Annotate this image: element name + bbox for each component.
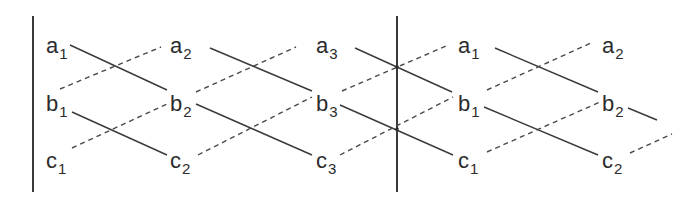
node-label-b1_right: b1 xyxy=(458,91,480,120)
solid-edge-a3-to-b1_right xyxy=(355,48,452,92)
node-subscript: 2 xyxy=(182,160,190,177)
labels-layer: a1b1c1a2b2c2a3b3c3a1b1c1a2b2c2 xyxy=(46,33,624,177)
node-label-c1_right: c1 xyxy=(458,148,478,177)
node-subscript: 2 xyxy=(615,45,623,62)
node-subscript: 1 xyxy=(59,45,67,62)
dashed-edge-b1_left-to-a2_left xyxy=(60,47,161,89)
dashed-edge-c1_left-to-b2_left xyxy=(72,104,167,148)
node-subscript: 3 xyxy=(328,160,336,177)
boundary-crossing-dot xyxy=(395,65,399,69)
node-subscript: 3 xyxy=(329,103,337,120)
node-label-c2_right: c2 xyxy=(602,148,622,177)
node-base-letter: b xyxy=(458,91,470,116)
node-base-letter: c xyxy=(46,148,57,173)
node-label-c2_left: c2 xyxy=(170,148,190,177)
node-base-letter: a xyxy=(170,33,183,58)
braid-diagram: a1b1c1a2b2c2a3b3c3a1b1c1a2b2c2 xyxy=(0,0,700,205)
node-label-a1_left: a1 xyxy=(46,33,68,62)
node-label-b3: b3 xyxy=(316,91,338,120)
node-label-a2_left: a2 xyxy=(170,33,192,62)
node-subscript: 1 xyxy=(59,103,67,120)
dashed-edge-c2_left-to-b3 xyxy=(198,97,312,155)
node-subscript: 1 xyxy=(471,103,479,120)
boundary-crossing-dot xyxy=(395,127,399,131)
node-base-letter: b xyxy=(602,91,614,116)
diagram-canvas: a1b1c1a2b2c2a3b3c3a1b1c1a2b2c2 xyxy=(0,0,700,205)
node-base-letter: b xyxy=(46,91,58,116)
node-base-letter: c xyxy=(602,148,613,173)
solid-edge-a1_right-to-b2_right xyxy=(495,48,598,92)
dashed-edge-c2_right-to-continuation xyxy=(630,134,672,153)
node-label-b2_left: b2 xyxy=(170,91,192,120)
solid-edge-b2_right-to-continuation xyxy=(628,108,657,120)
node-subscript: 2 xyxy=(615,103,623,120)
node-subscript: 3 xyxy=(329,45,337,62)
node-subscript: 1 xyxy=(470,160,478,177)
node-subscript: 1 xyxy=(58,160,66,177)
lines-layer xyxy=(33,16,672,192)
node-base-letter: c xyxy=(316,148,327,173)
node-label-a2_right: a2 xyxy=(602,33,624,62)
solid-edge-a2_left-to-b3 xyxy=(210,48,312,91)
node-subscript: 2 xyxy=(183,45,191,62)
solid-edge-a1_left-to-b2_left xyxy=(70,45,167,90)
node-base-letter: c xyxy=(458,148,469,173)
node-base-letter: c xyxy=(170,148,181,173)
node-label-c1_left: c1 xyxy=(46,148,66,177)
node-label-a1_right: a1 xyxy=(458,33,480,62)
node-subscript: 2 xyxy=(183,103,191,120)
solid-edge-b1_left-to-c2_left xyxy=(72,112,167,155)
solid-edge-b2_left-to-c3 xyxy=(196,104,312,155)
node-subscript: 2 xyxy=(614,160,622,177)
dashed-edge-b3-to-a1_right xyxy=(342,46,446,91)
solid-edge-b1_right-to-c2_right xyxy=(484,107,598,155)
node-base-letter: a xyxy=(602,33,615,58)
node-base-letter: a xyxy=(46,33,59,58)
dashed-edge-c1_right-to-b2_right xyxy=(487,102,600,152)
node-base-letter: b xyxy=(170,91,182,116)
node-base-letter: b xyxy=(316,91,328,116)
node-label-a3: a3 xyxy=(316,33,338,62)
node-label-b2_right: b2 xyxy=(602,91,624,120)
node-base-letter: a xyxy=(316,33,329,58)
node-label-c3: c3 xyxy=(316,148,336,177)
node-base-letter: a xyxy=(458,33,471,58)
dashed-edge-b2_left-to-a3 xyxy=(196,47,296,92)
node-label-b1_left: b1 xyxy=(46,91,68,120)
node-subscript: 1 xyxy=(471,45,479,62)
